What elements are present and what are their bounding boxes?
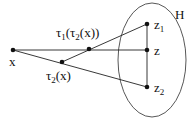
point-z bbox=[145, 48, 150, 53]
point-z1 bbox=[145, 22, 150, 27]
point-z2 bbox=[145, 85, 150, 90]
point-t2x bbox=[60, 60, 65, 65]
label-z: z bbox=[154, 43, 160, 58]
label-x: x bbox=[9, 54, 16, 69]
label-t2x: τ2(x) bbox=[46, 68, 71, 85]
edge-x-z2 bbox=[13, 50, 147, 87]
point-x bbox=[11, 48, 16, 53]
diagram-canvas: H x τ2(x) τ1(τ2(x)) z1 z z2 bbox=[0, 0, 191, 121]
label-z1: z1 bbox=[154, 17, 164, 34]
set-label-h: H bbox=[175, 7, 184, 22]
label-z2: z2 bbox=[154, 80, 164, 97]
label-t1t2x: τ1(τ2(x)) bbox=[56, 25, 99, 42]
point-t1t2x bbox=[87, 47, 92, 52]
